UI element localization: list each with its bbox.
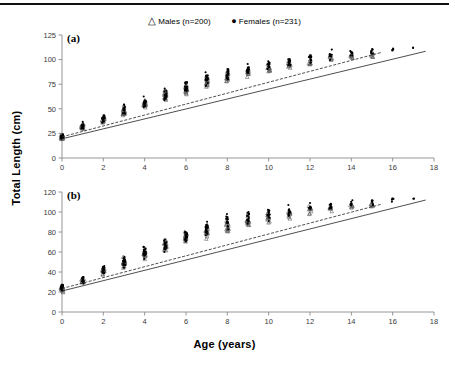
svg-text:40: 40 — [48, 268, 56, 277]
svg-text:125: 125 — [43, 31, 56, 40]
svg-text:50: 50 — [48, 105, 56, 114]
svg-text:18: 18 — [430, 163, 438, 172]
svg-text:0: 0 — [52, 154, 56, 163]
panel-a: 0255075100125024681012141618 — [0, 28, 449, 178]
legend-label-females: Females (n=231) — [239, 17, 301, 26]
svg-text:10: 10 — [264, 163, 272, 172]
svg-text:0: 0 — [60, 317, 64, 326]
svg-text:6: 6 — [184, 317, 188, 326]
circle-filled-icon: ● — [231, 17, 237, 26]
svg-text:60: 60 — [48, 248, 56, 257]
legend: △Males (n=200) ●Females (n=231) — [0, 16, 449, 26]
svg-text:100: 100 — [43, 208, 56, 217]
svg-text:4: 4 — [143, 317, 147, 326]
svg-text:4: 4 — [143, 163, 147, 172]
svg-text:12: 12 — [306, 317, 314, 326]
svg-text:14: 14 — [347, 317, 355, 326]
svg-text:75: 75 — [48, 80, 56, 89]
panel-b-tag: (b) — [67, 189, 80, 201]
svg-text:6: 6 — [184, 163, 188, 172]
svg-text:2: 2 — [101, 317, 105, 326]
svg-text:12: 12 — [306, 163, 314, 172]
header-rule — [0, 3, 449, 5]
triangle-open-icon: △ — [148, 16, 156, 25]
legend-entry-females: ●Females (n=231) — [231, 17, 301, 27]
svg-text:8: 8 — [225, 163, 229, 172]
svg-text:10: 10 — [264, 317, 272, 326]
svg-text:2: 2 — [101, 163, 105, 172]
svg-text:8: 8 — [225, 317, 229, 326]
svg-text:20: 20 — [48, 288, 56, 297]
svg-text:16: 16 — [388, 317, 396, 326]
figure-root: △Males (n=200) ●Females (n=231) Total Le… — [0, 0, 449, 366]
svg-text:25: 25 — [48, 129, 56, 138]
panel-b: 020406080100120024681012141618 — [0, 185, 449, 333]
svg-text:0: 0 — [52, 308, 56, 317]
svg-text:120: 120 — [43, 188, 56, 197]
x-axis-label: Age (years) — [0, 338, 449, 350]
svg-text:18: 18 — [430, 317, 438, 326]
legend-entry-males: △Males (n=200) — [148, 16, 211, 26]
svg-text:80: 80 — [48, 228, 56, 237]
svg-text:0: 0 — [60, 163, 64, 172]
svg-text:100: 100 — [43, 55, 56, 64]
svg-text:16: 16 — [388, 163, 396, 172]
legend-label-males: Males (n=200) — [158, 17, 211, 26]
panel-a-tag: (a) — [67, 32, 80, 44]
svg-text:14: 14 — [347, 163, 355, 172]
